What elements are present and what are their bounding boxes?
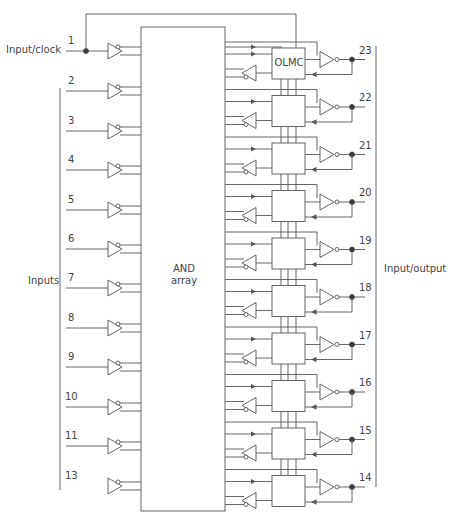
io-pin-16: 16: [359, 377, 372, 388]
input-pin-13: 13: [65, 470, 78, 481]
olmc-block: [272, 191, 305, 222]
output-buffer-icon: [320, 242, 334, 258]
input-buffer-icon: [108, 83, 122, 99]
inputs-label: Inputs: [28, 275, 59, 286]
inverter-bubble-icon: [335, 58, 339, 62]
input-buffer-icon: [108, 123, 122, 139]
olmc-block: [272, 381, 305, 412]
io-pin-15: 15: [359, 425, 372, 436]
output-buffer-icon: [320, 52, 334, 68]
output-buffer-icon: [320, 194, 334, 210]
and-array-label-line1: AND: [160, 263, 208, 274]
output-buffer-icon: [320, 99, 334, 115]
olmc-block: [272, 143, 305, 174]
feedback-buffer-icon: [242, 303, 256, 319]
input-pin-9: 9: [68, 351, 74, 362]
and-array-label-line2: array: [160, 275, 208, 286]
output-buffer-icon: [320, 479, 334, 495]
inverter-bubble-icon: [244, 313, 248, 317]
inverter-bubble-icon: [116, 204, 120, 208]
inverter-bubble-icon: [116, 45, 120, 49]
olmc-block: [272, 96, 305, 127]
output-buffer-icon: [320, 432, 334, 448]
io-pin-20: 20: [359, 187, 372, 198]
olmc-block: [272, 238, 305, 269]
input-buffer-icon: [108, 162, 122, 178]
inverter-bubble-icon: [335, 153, 339, 157]
inverter-bubble-icon: [335, 295, 339, 299]
inverter-bubble-icon: [335, 343, 339, 347]
input-buffer-icon: [108, 399, 122, 415]
io-pin-18: 18: [359, 282, 372, 293]
output-buffer-icon: [320, 337, 334, 353]
inverter-bubble-icon: [244, 218, 248, 222]
inverter-bubble-icon: [244, 123, 248, 127]
inverter-bubble-icon: [116, 164, 120, 168]
inverter-bubble-icon: [244, 265, 248, 269]
input-buffer-icon: [108, 478, 122, 494]
input-pin-2: 2: [68, 75, 74, 86]
inverter-bubble-icon: [116, 125, 120, 129]
inverter-bubble-icon: [335, 485, 339, 489]
io-pin-19: 19: [359, 235, 372, 246]
inverter-bubble-icon: [116, 282, 120, 286]
input-buffer-icon: [108, 241, 122, 257]
feedback-buffer-icon: [242, 445, 256, 461]
input-output-label: Input/output: [384, 263, 446, 274]
feedback-buffer-icon: [242, 350, 256, 366]
feedback-buffer-icon: [242, 113, 256, 129]
feedback-buffer-icon: [242, 493, 256, 509]
inverter-bubble-icon: [116, 401, 120, 405]
io-pin-17: 17: [359, 330, 372, 341]
inverter-bubble-icon: [244, 360, 248, 364]
inverter-bubble-icon: [116, 480, 120, 484]
feedback-buffer-icon: [242, 65, 256, 81]
olmc-block: [272, 286, 305, 317]
inverter-bubble-icon: [335, 390, 339, 394]
input-pin-8: 8: [68, 312, 74, 323]
input-pin-11: 11: [65, 430, 78, 441]
inverter-bubble-icon: [335, 200, 339, 204]
olmc-block: [272, 333, 305, 364]
inverter-bubble-icon: [335, 248, 339, 252]
inverter-bubble-icon: [116, 322, 120, 326]
inverter-bubble-icon: [244, 75, 248, 79]
input-pin-5: 5: [68, 194, 74, 205]
input-buffer-icon: [108, 320, 122, 336]
feedback-buffer-icon: [242, 208, 256, 224]
io-pin-21: 21: [359, 140, 372, 151]
inverter-bubble-icon: [335, 105, 339, 109]
io-pin-23: 23: [359, 45, 372, 56]
inverter-bubble-icon: [244, 170, 248, 174]
input-pin-3: 3: [68, 115, 74, 126]
input-buffer-icon: [108, 43, 122, 59]
inverter-bubble-icon: [116, 361, 120, 365]
input-buffer-icon: [108, 280, 122, 296]
olmc-block: [272, 476, 305, 507]
io-pin-22: 22: [359, 92, 372, 103]
input-pin-4: 4: [68, 154, 74, 165]
feedback-buffer-icon: [242, 160, 256, 176]
output-buffer-icon: [320, 147, 334, 163]
input-pin-6: 6: [68, 233, 74, 244]
input-clock-label: Input/clock: [6, 44, 61, 55]
inverter-bubble-icon: [116, 243, 120, 247]
input-pin-10: 10: [65, 391, 78, 402]
feedback-buffer-icon: [242, 398, 256, 414]
inverter-bubble-icon: [335, 438, 339, 442]
input-buffer-icon: [108, 438, 122, 454]
io-pin-14: 14: [359, 472, 372, 483]
inverter-bubble-icon: [244, 455, 248, 459]
olmc-block: [272, 428, 305, 459]
input-pin-1: 1: [68, 35, 74, 46]
input-buffer-icon: [108, 359, 122, 375]
input-buffer-icon: [108, 202, 122, 218]
olmc-label: OLMC: [272, 57, 306, 68]
input-pin-7: 7: [68, 272, 74, 283]
output-buffer-icon: [320, 289, 334, 305]
feedback-buffer-icon: [242, 255, 256, 271]
inverter-bubble-icon: [244, 503, 248, 507]
inverter-bubble-icon: [244, 408, 248, 412]
inverter-bubble-icon: [116, 440, 120, 444]
output-buffer-icon: [320, 384, 334, 400]
